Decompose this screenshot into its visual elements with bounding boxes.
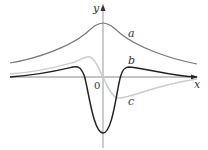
curve-b-label: b [128, 54, 135, 67]
curve-c-label: c [128, 95, 134, 108]
y-axis-arrow-icon [101, 4, 106, 11]
y-axis-label: y [92, 2, 100, 15]
curve-a-label: a [128, 27, 135, 40]
origin-label: 0 [94, 80, 100, 91]
graph: y x 0 a b c [0, 0, 208, 150]
x-axis-label: x [194, 78, 201, 91]
